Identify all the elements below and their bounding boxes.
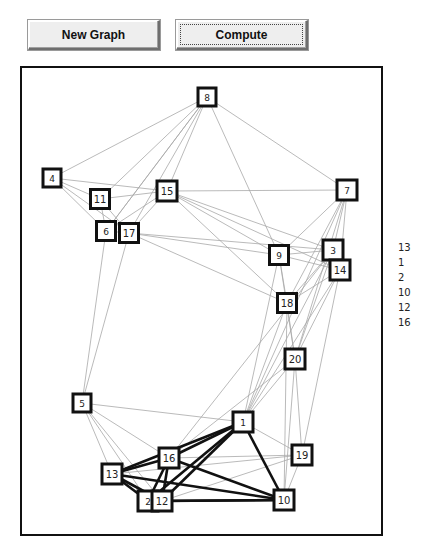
graph-edge xyxy=(167,97,207,191)
graph-edge xyxy=(129,233,287,303)
graph-node-1[interactable]: 1 xyxy=(233,412,253,432)
graph-node-16[interactable]: 16 xyxy=(159,448,179,468)
graph-node-5[interactable]: 5 xyxy=(73,394,91,412)
graph-node-4[interactable]: 4 xyxy=(43,169,61,187)
node-label: 15 xyxy=(161,186,174,197)
node-label: 11 xyxy=(94,194,107,205)
graph-edge xyxy=(129,233,333,250)
graph-nodes: 1234567891011121314151617181920 xyxy=(43,88,357,511)
graph-node-15[interactable]: 15 xyxy=(157,181,177,201)
graph-edge xyxy=(82,403,169,458)
graph-edge xyxy=(82,231,106,403)
graph-node-9[interactable]: 9 xyxy=(270,246,289,265)
graph-edge xyxy=(82,403,162,501)
node-label: 18 xyxy=(281,298,294,309)
graph-node-18[interactable]: 18 xyxy=(278,294,297,313)
result-item: 10 xyxy=(398,285,411,300)
graph-edge xyxy=(82,403,243,422)
node-label: 5 xyxy=(79,399,85,409)
node-label: 20 xyxy=(289,354,302,365)
graph-edge xyxy=(82,233,129,403)
compute-label: Compute xyxy=(216,28,268,42)
graph-edge xyxy=(82,403,148,501)
node-label: 14 xyxy=(334,265,347,276)
node-label: 2 xyxy=(145,497,151,507)
graph-edge xyxy=(295,359,302,455)
node-label: 8 xyxy=(204,93,210,103)
new-graph-label: New Graph xyxy=(62,28,125,42)
graph-edge xyxy=(295,250,333,359)
graph-edge xyxy=(167,191,333,250)
graph-edge xyxy=(169,455,302,458)
graph-node-20[interactable]: 20 xyxy=(285,349,305,369)
result-item: 12 xyxy=(398,300,411,315)
graph-edge xyxy=(100,97,207,199)
graph-edge xyxy=(106,97,207,231)
graph-node-12[interactable]: 12 xyxy=(152,491,172,511)
graph-node-7[interactable]: 7 xyxy=(337,180,357,200)
node-label: 10 xyxy=(278,495,291,506)
result-item: 1 xyxy=(398,255,411,270)
graph-edge xyxy=(167,191,340,270)
graph-node-17[interactable]: 17 xyxy=(120,224,139,243)
graph-node-19[interactable]: 19 xyxy=(292,445,312,465)
result-item: 13 xyxy=(398,240,411,255)
result-list: 13 1 2 10 12 16 xyxy=(398,240,411,330)
node-label: 6 xyxy=(103,227,109,237)
node-label: 7 xyxy=(344,186,350,196)
graph-node-6[interactable]: 6 xyxy=(97,222,116,241)
node-label: 9 xyxy=(276,251,282,261)
clique-edge xyxy=(162,500,284,501)
result-item: 16 xyxy=(398,315,411,330)
graph-edge xyxy=(167,190,347,191)
result-item: 2 xyxy=(398,270,411,285)
node-label: 4 xyxy=(49,174,55,184)
graph-node-14[interactable]: 14 xyxy=(330,260,350,280)
graph-node-8[interactable]: 8 xyxy=(198,88,216,106)
node-label: 3 xyxy=(330,246,336,256)
node-label: 17 xyxy=(123,228,136,239)
node-label: 19 xyxy=(296,450,309,461)
node-label: 16 xyxy=(163,453,176,464)
graph-node-3[interactable]: 3 xyxy=(323,240,343,260)
node-label: 12 xyxy=(156,496,169,507)
graph-edge xyxy=(167,191,279,255)
graph-edge xyxy=(295,270,340,359)
graph-node-13[interactable]: 13 xyxy=(102,464,122,484)
graph-edge xyxy=(243,250,333,422)
graph-node-10[interactable]: 10 xyxy=(274,490,294,510)
graph-app: New Graph Compute 1234567891011121314151… xyxy=(0,0,435,552)
node-label: 1 xyxy=(240,418,246,428)
graph-drawing[interactable]: 1234567891011121314151617181920 xyxy=(0,0,435,552)
graph-node-11[interactable]: 11 xyxy=(91,190,110,209)
node-label: 13 xyxy=(106,469,119,480)
